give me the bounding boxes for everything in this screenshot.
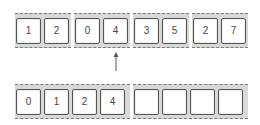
bottom-cell: 4 xyxy=(100,89,125,115)
bottom-cell-empty xyxy=(134,89,159,115)
bottom-cell: 0 xyxy=(16,89,41,115)
bottom-group-0: 0 1 2 4 xyxy=(15,84,130,119)
top-cell: 3 xyxy=(134,18,159,44)
top-group-0: 1 2 xyxy=(15,13,71,48)
bottom-cell: 2 xyxy=(72,89,97,115)
top-cell: 5 xyxy=(162,18,187,44)
top-cell-pointed: 4 xyxy=(103,18,128,44)
bottom-cell-empty xyxy=(162,89,187,115)
top-group-1: 0 4 xyxy=(74,13,130,48)
top-cell: 2 xyxy=(44,18,69,44)
top-group-3: 2 7 xyxy=(192,13,248,48)
top-cell: 7 xyxy=(221,18,246,44)
bottom-cell-empty xyxy=(218,89,243,115)
up-arrow-icon xyxy=(112,52,120,72)
top-cell: 1 xyxy=(16,18,41,44)
bottom-cell-empty xyxy=(190,89,215,115)
top-group-2: 3 5 xyxy=(133,13,189,48)
bottom-cell: 1 xyxy=(44,89,69,115)
top-cell: 2 xyxy=(193,18,218,44)
bottom-group-1 xyxy=(133,84,248,119)
top-cell: 0 xyxy=(75,18,100,44)
